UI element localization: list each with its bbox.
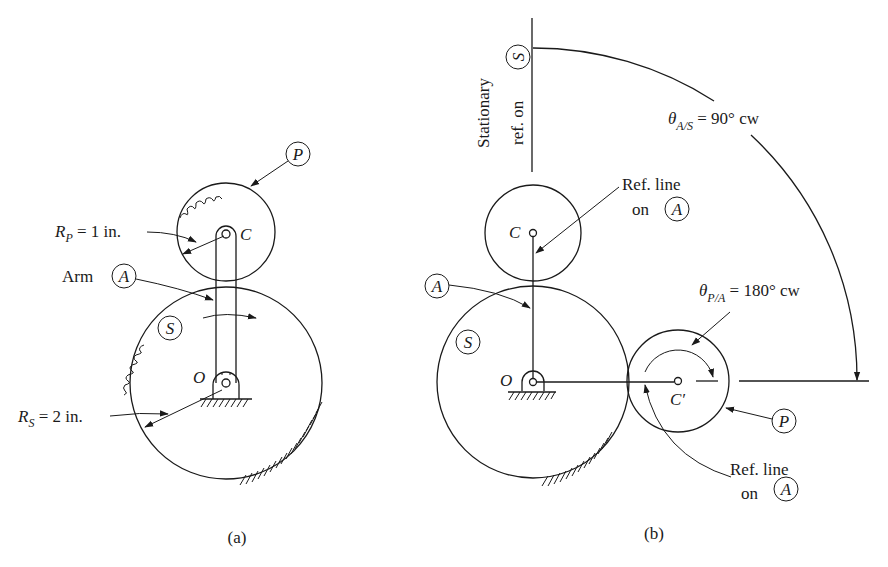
arm-bar xyxy=(216,226,236,383)
theta-as-label: θA/S = 90° cw xyxy=(668,109,760,133)
fixed-ground-hatch-s-b-icon xyxy=(542,432,612,486)
refline-top-line1: Ref. line xyxy=(622,175,681,194)
rs-dimension-line xyxy=(145,390,222,427)
panel-b: Stationary ref. on S θA/S = 90° cw C Ref… xyxy=(425,18,869,543)
label-p-leader xyxy=(251,161,288,186)
refline-top-line2: on xyxy=(632,200,650,219)
stationary-s-text: S xyxy=(509,52,528,61)
label-c-text: C xyxy=(240,225,252,244)
pin-c-b xyxy=(530,230,537,237)
refline-bottom-a-text: A xyxy=(780,480,792,499)
pin-o-b xyxy=(530,379,537,386)
ground-hatch-o-b-icon xyxy=(509,392,555,400)
stationary-label-line1: Stationary xyxy=(474,78,493,148)
stationary-label-line2: ref. on xyxy=(508,100,527,145)
pin-c-prime xyxy=(675,378,682,385)
refline-top-leader xyxy=(536,187,619,253)
label-arm-a-text: A xyxy=(118,267,130,286)
theta-pa-arc xyxy=(645,350,713,377)
pin-o xyxy=(222,379,230,387)
label-p-text: P xyxy=(292,145,303,164)
ground-hatch-o-icon xyxy=(201,399,248,407)
refline-top-a-text: A xyxy=(671,200,683,219)
fixed-ground-hatch-s-a-icon xyxy=(240,402,322,485)
label-s-text-b: S xyxy=(464,333,473,352)
planet-teeth-icon xyxy=(180,196,222,218)
label-arm-a-text-b: A xyxy=(431,277,443,296)
caption-b: (b) xyxy=(644,524,664,543)
theta-as-arc-upper xyxy=(533,48,714,101)
panel-a: P C RP = 1 in. Arm A S O RS = 2 in. (a) xyxy=(17,142,322,547)
label-o-text: O xyxy=(193,368,205,387)
rp-leader xyxy=(147,232,196,242)
caption-a: (a) xyxy=(228,528,247,547)
planetary-gear-figure: P C RP = 1 in. Arm A S O RS = 2 in. (a) xyxy=(0,0,888,567)
label-c-prime-text: C′ xyxy=(670,390,685,409)
arm-leader xyxy=(136,279,213,300)
label-p-leader-b xyxy=(726,408,772,419)
label-s-text: S xyxy=(166,319,175,338)
label-o-text-b: O xyxy=(500,371,512,390)
sun-teeth-icon xyxy=(124,345,145,395)
theta-pa-label: θP/A = 180° cw xyxy=(699,281,801,305)
label-c-text-b: C xyxy=(509,223,521,242)
arm-rotation-arrow-icon xyxy=(203,315,256,319)
refline-bottom-line2: on xyxy=(741,484,759,503)
theta-as-arc-lower xyxy=(751,135,857,380)
rs-leader xyxy=(110,413,168,416)
label-p-text-b: P xyxy=(778,412,789,431)
refline-bottom-line1: Ref. line xyxy=(730,460,789,479)
rs-dimension-label: RS = 2 in. xyxy=(17,407,83,430)
rp-dimension-label: RP = 1 in. xyxy=(54,222,121,245)
arm-label-text: Arm xyxy=(62,267,93,286)
theta-pa-leader xyxy=(692,312,730,345)
